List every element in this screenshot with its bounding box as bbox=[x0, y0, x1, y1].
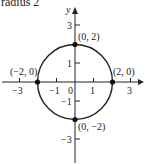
point-label-left: (−2, 0) bbox=[10, 66, 37, 78]
point-bottom bbox=[72, 117, 77, 122]
y-tick-label: −1 bbox=[61, 96, 72, 107]
x-tick-label: 3 bbox=[127, 85, 132, 96]
x-tick-label: 0 bbox=[68, 85, 73, 96]
x-tick-label: −1 bbox=[49, 85, 60, 96]
point-left bbox=[35, 79, 40, 84]
y-axis-label: y bbox=[65, 4, 71, 15]
y-axis-arrow-icon bbox=[72, 7, 78, 14]
point-label-top: (0, 2) bbox=[78, 31, 100, 43]
circle-diagram: radius 2 y −3 −1 0 1 3 3 1 −1 −3 (0, 2) … bbox=[0, 0, 145, 164]
x-tick-label: 1 bbox=[90, 85, 95, 96]
point-right bbox=[110, 79, 115, 84]
y-tick-label: 3 bbox=[67, 20, 72, 31]
point-label-right: (2, 0) bbox=[113, 66, 135, 78]
point-label-bottom: (0, −2) bbox=[78, 121, 105, 133]
y-tick-label: 1 bbox=[67, 58, 72, 69]
y-tick-label: −3 bbox=[61, 134, 72, 145]
point-top bbox=[72, 42, 77, 47]
x-axis-arrow-icon bbox=[138, 79, 144, 85]
x-tick-label: −3 bbox=[12, 85, 23, 96]
caption: radius 2 bbox=[1, 0, 39, 9]
